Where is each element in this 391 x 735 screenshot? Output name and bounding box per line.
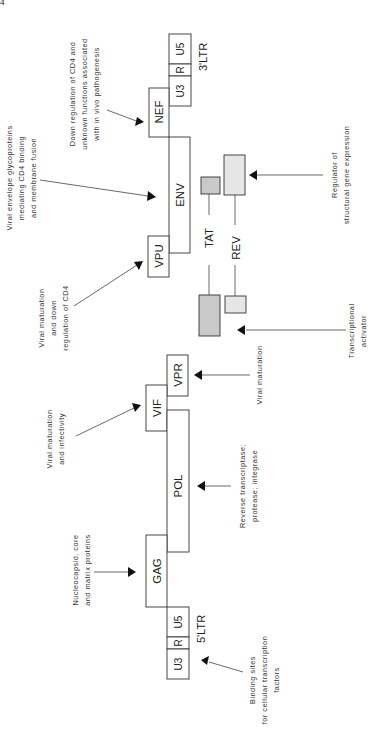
pol-label: POL — [172, 474, 184, 498]
rev-arrow-icon — [249, 170, 257, 180]
ltr5-annotation-line2: for cellular transcription — [260, 636, 269, 724]
rev-block: REV — [224, 155, 246, 313]
nef-annotation-line1: Down regulation of CD4 and — [68, 42, 77, 147]
tat-label: TAT — [203, 228, 215, 248]
vpu-arrow-icon — [134, 261, 143, 270]
vif-annotation-line2: and infectivity — [57, 413, 66, 465]
rev-annotation-line2: structural gene expression — [342, 126, 351, 225]
vif-annotation-line1: Viral maturation — [45, 410, 54, 469]
env-label: ENV — [174, 183, 186, 207]
vpu-annotation-line3: regulation of CD4 — [61, 285, 70, 350]
rev-exon1-box — [224, 155, 245, 195]
tat-arrow-icon — [237, 325, 245, 335]
tat-annotation-line1: Transcriptional — [347, 303, 356, 358]
pol-annotation-line1: Reverse transcriptase; — [238, 444, 247, 528]
nef-annotation-line2: unknown functions associated — [80, 38, 89, 149]
nef-annotation-line3: with in vivo pathogenesis — [92, 47, 101, 142]
gag-annotation-line2: and matrix proteins — [83, 534, 92, 606]
tat-exon2-box — [199, 295, 220, 336]
ltr5-arrow-icon — [201, 656, 209, 665]
env-arrow-icon — [147, 191, 156, 201]
vpr-arrow-icon — [194, 370, 202, 380]
ltr5-label: 5'LTR — [195, 615, 207, 643]
ltr5-u3-label: U3 — [173, 657, 184, 670]
ltr5-block: U5 R U3 5'LTR — [167, 607, 207, 679]
tat-annotation-line2: activator — [359, 315, 368, 347]
vpu-label: VPU — [153, 244, 165, 268]
vpu-annotation-line1: Viral maturation — [37, 289, 46, 348]
rev-label: REV — [230, 236, 242, 260]
ltr3-block: U5 R U3 3'LTR — [169, 34, 209, 106]
pol-annotation-line2: protease; integrase — [250, 450, 259, 522]
tat-block: TAT — [199, 177, 220, 336]
nef-label: NEF — [153, 101, 165, 124]
tat-exon1-box — [201, 177, 220, 194]
ltr5-annotation-line3: factors — [272, 667, 281, 692]
ltr3-label: 3'LTR — [197, 43, 209, 71]
env-annotation-line2: mediating CD4 binding — [17, 136, 26, 220]
gag-arrow-icon — [128, 567, 136, 577]
hiv-genome-diagram: U5 R U3 3'LTR NEF ENV VPU VPR VIF POL GA… — [0, 0, 391, 735]
ltr3-r-label: R — [175, 66, 186, 73]
ltr3-u5-label: U5 — [175, 42, 186, 55]
vif-label: VIF — [151, 399, 163, 417]
ltr5-r-label: R — [173, 639, 184, 646]
vpu-annotation-line2: and down — [49, 300, 58, 336]
env-annotation-line1: Viral envelope glycoproteins — [5, 125, 14, 230]
gag-annotation-line1: Nucleocapsid, core — [71, 534, 80, 605]
vif-arrow-icon — [132, 403, 141, 412]
ltr3-u3-label: U3 — [175, 84, 186, 97]
nef-arrow-icon — [135, 117, 144, 126]
vpr-label: VPR — [172, 363, 184, 387]
ltr5-u5-label: U5 — [173, 615, 184, 628]
rev-exon2-box — [225, 296, 246, 313]
ltr5-annotation-line1: Binding sites — [248, 656, 257, 704]
env-annotation-line3: and membrane fusion — [29, 138, 38, 218]
vpr-annotation-line1: Viral maturation — [255, 346, 264, 405]
gag-label: GAG — [151, 558, 163, 584]
rev-annotation-line1: Regulator of — [330, 152, 339, 198]
pol-arrow-icon — [197, 481, 205, 491]
